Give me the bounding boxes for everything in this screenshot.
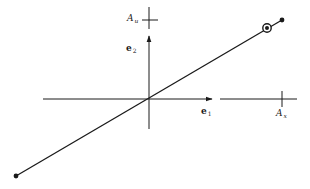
circled-point-fill bbox=[265, 26, 269, 30]
vector-diagram bbox=[0, 0, 310, 189]
label-e2: e2 bbox=[126, 44, 137, 54]
label-a-x-subscript: x bbox=[284, 112, 287, 119]
label-e1-base: e bbox=[201, 106, 207, 116]
label-e2-base: e bbox=[126, 43, 132, 53]
label-a-u-base: A bbox=[127, 13, 134, 23]
label-a-u-subscript: u bbox=[135, 17, 139, 24]
label-a-x-base: A bbox=[276, 108, 283, 118]
lower-left-point bbox=[14, 174, 19, 179]
label-a-u: Au bbox=[127, 14, 138, 24]
label-e1-subscript: 1 bbox=[208, 110, 212, 117]
label-e2-subscript: 2 bbox=[133, 47, 137, 54]
label-a-x: Ax bbox=[276, 109, 287, 119]
label-e1: e1 bbox=[201, 107, 212, 117]
upper-right-point bbox=[280, 18, 285, 23]
